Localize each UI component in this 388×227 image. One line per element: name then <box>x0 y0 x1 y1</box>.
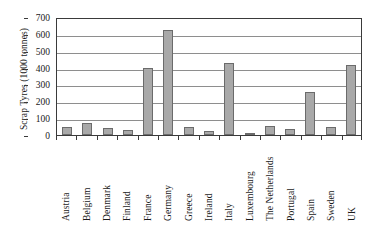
x-label-slot: Finland <box>117 141 137 221</box>
y-tick-label: 200 <box>36 97 50 107</box>
bar-slot <box>341 19 361 135</box>
y-tick-mark <box>24 85 28 86</box>
x-axis-ticks <box>56 136 362 140</box>
bar <box>103 128 113 135</box>
bar-slot <box>320 19 340 135</box>
x-tick-label: UK <box>345 141 359 221</box>
x-tick-slot <box>342 136 362 140</box>
x-tick-mark <box>76 136 77 140</box>
bar-slot <box>77 19 97 135</box>
x-tick-mark <box>301 136 302 140</box>
bar-slot <box>57 19 77 135</box>
y-tick-label: 100 <box>36 114 50 124</box>
x-tick-label: Denmark <box>100 141 114 221</box>
x-tick-label: Sweden <box>324 141 338 221</box>
bar <box>123 130 133 135</box>
y-tick-mark <box>24 69 28 70</box>
bar <box>204 131 214 135</box>
x-label-slot: Ireland <box>199 141 219 221</box>
bar-slot <box>179 19 199 135</box>
x-tick-slot <box>56 136 76 140</box>
x-label-slot: Luxembourg <box>240 141 260 221</box>
x-label-slot: Austria <box>56 141 76 221</box>
x-tick-mark <box>361 136 362 140</box>
x-label-slot: Portugal <box>280 141 300 221</box>
x-axis-labels: AustriaBelgiumDenmarkFinlandFranceGerman… <box>56 141 362 221</box>
bar-slot <box>199 19 219 135</box>
bar-slot <box>158 19 178 135</box>
x-tick-slot <box>240 136 260 140</box>
bar <box>143 68 153 135</box>
x-tick-mark <box>178 136 179 140</box>
x-tick-label: Greece <box>182 141 196 221</box>
x-label-slot: Spain <box>301 141 321 221</box>
x-tick-mark <box>138 136 139 140</box>
bar <box>82 123 92 135</box>
bar <box>326 127 336 135</box>
x-tick-mark <box>199 136 200 140</box>
bar <box>285 129 295 135</box>
scrap-tyres-bar-chart: Scrap Tyres (1000 tonnes) 01002003004005… <box>0 0 388 227</box>
x-tick-label: Italy <box>222 141 236 221</box>
x-tick-mark <box>56 136 57 140</box>
x-tick-slot <box>219 136 239 140</box>
x-tick-mark <box>321 136 322 140</box>
x-label-slot: Italy <box>219 141 239 221</box>
x-tick-slot <box>260 136 280 140</box>
y-tick-label: 500 <box>36 47 50 57</box>
x-tick-mark <box>280 136 281 140</box>
bar-slot <box>219 19 239 135</box>
x-tick-label: Belgium <box>80 141 94 221</box>
bar-slot <box>260 19 280 135</box>
y-tick-label: 700 <box>36 13 50 23</box>
x-label-slot: Sweden <box>321 141 341 221</box>
y-tick-label: 0 <box>45 131 50 141</box>
x-tick-slot <box>280 136 300 140</box>
x-tick-label: Portugal <box>284 141 298 221</box>
x-tick-label: Finland <box>120 141 134 221</box>
x-tick-slot <box>321 136 341 140</box>
x-label-slot: Germany <box>158 141 178 221</box>
x-tick-slot <box>301 136 321 140</box>
x-tick-slot <box>97 136 117 140</box>
x-label-slot: The Netherlands <box>260 141 280 221</box>
x-tick-label: Germany <box>161 141 175 221</box>
x-tick-label: Ireland <box>202 141 216 221</box>
x-tick-label: Spain <box>304 141 318 221</box>
x-tick-mark <box>240 136 241 140</box>
bar-series <box>57 19 361 135</box>
y-axis-ticks: 0100200300400500600700 <box>24 12 52 140</box>
x-tick-mark <box>117 136 118 140</box>
x-tick-slot <box>158 136 178 140</box>
bar-slot <box>300 19 320 135</box>
x-tick-mark <box>342 136 343 140</box>
x-tick-slot <box>117 136 137 140</box>
x-tick-slot <box>199 136 219 140</box>
y-tick-mark <box>24 119 28 120</box>
x-tick-label: France <box>141 141 155 221</box>
x-tick-label: Luxembourg <box>243 141 257 221</box>
x-tick-slot <box>76 136 96 140</box>
x-label-slot: Belgium <box>76 141 96 221</box>
x-tick-mark <box>158 136 159 140</box>
y-tick-mark <box>24 52 28 53</box>
bar <box>224 63 234 135</box>
x-tick-label: Austria <box>59 141 73 221</box>
bar <box>346 65 356 135</box>
bar-slot <box>239 19 259 135</box>
y-tick-mark <box>24 18 28 19</box>
y-tick-mark <box>24 35 28 36</box>
bar <box>184 127 194 135</box>
y-tick-mark <box>24 102 28 103</box>
y-tick-label: 300 <box>36 80 50 90</box>
x-tick-slot <box>138 136 158 140</box>
x-label-slot: Greece <box>178 141 198 221</box>
y-tick-label: 400 <box>36 64 50 74</box>
y-tick-mark <box>24 136 28 137</box>
bar <box>163 30 173 135</box>
x-tick-mark <box>219 136 220 140</box>
bar <box>265 126 275 135</box>
bar <box>305 92 315 135</box>
bar-slot <box>138 19 158 135</box>
x-tick-slot <box>178 136 198 140</box>
